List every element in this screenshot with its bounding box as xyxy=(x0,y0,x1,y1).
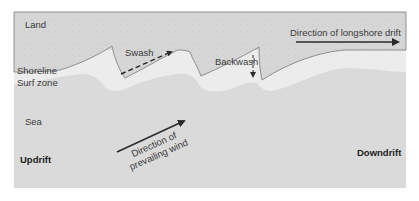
sea-label: Sea xyxy=(25,117,42,127)
shoreline-label: Shoreline xyxy=(17,66,57,76)
longshore-drift-diagram: Land Shoreline Surf zone Sea Swash Backw… xyxy=(0,0,419,201)
downdrift-label: Downdrift xyxy=(357,148,401,158)
land-label: Land xyxy=(25,20,46,30)
swash-label: Swash xyxy=(125,48,154,58)
updrift-label: Updrift xyxy=(20,155,51,165)
backwash-label: Backwash xyxy=(215,57,258,67)
surf-zone-label: Surf zone xyxy=(17,78,58,88)
longshore-drift-label: Direction of longshore drift xyxy=(290,28,401,38)
